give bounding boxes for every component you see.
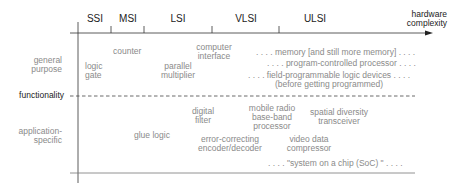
arrow-head-icon [425, 31, 433, 36]
scale-vlsi: VLSI [213, 13, 279, 24]
scale-ssi: SSI [80, 13, 110, 24]
item-glue-logic: glue logic [134, 131, 170, 140]
x-axis-label: hardware complexity [395, 10, 447, 28]
item-processor: . . . . program-controlled processor . .… [267, 59, 416, 68]
y-axis-label: functionality [0, 91, 64, 100]
item-memory: . . . . memory [and still more memory] .… [256, 48, 415, 57]
row-label-application-specific: application- specific [0, 127, 62, 145]
item-soc: . . . . "system on a chip (SoC) " . . . … [268, 159, 403, 168]
scale-msi: MSI [112, 13, 144, 24]
item-mobile-radio: mobile radio base-band processor [244, 104, 300, 131]
item-video-compressor: video data compressor [281, 135, 337, 153]
scale-lsi: LSI [145, 13, 211, 24]
item-spatial-diversity: spatial diversity transceiver [303, 108, 375, 126]
item-ecc: error-correcting encoder/decoder [194, 135, 266, 153]
item-digital-filter: digital filter [188, 107, 218, 125]
item-parallel-multiplier: parallel multiplier [150, 62, 206, 80]
item-counter: counter [113, 47, 141, 56]
item-logic-gate: logic gate [85, 62, 102, 80]
item-fpga: . . . . field-programmable logic devices… [234, 71, 424, 89]
row-label-general-purpose: general purpose [10, 56, 62, 74]
item-computer-interface: computer interface [190, 43, 238, 61]
scale-ulsi: ULSI [280, 13, 350, 24]
